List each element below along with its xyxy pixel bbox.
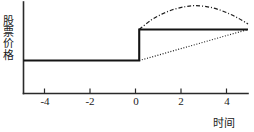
x-tick-label-4: 4 [216, 96, 238, 107]
stock-price-event-study-chart: -4 -2 0 2 4 股票价格 时间 [0, 0, 254, 132]
x-tick-label-neg2: -2 [79, 96, 101, 107]
x-tick-label-neg4: -4 [34, 96, 56, 107]
chart-plot-area [0, 0, 254, 132]
series-efficient-market-response [24, 29, 249, 60]
series-delayed-response [139, 29, 248, 60]
x-tick-label-2: 2 [170, 96, 192, 107]
y-axis-title: 股票价格 [1, 16, 16, 61]
series-overreaction-response [139, 6, 248, 30]
x-tick-label-0: 0 [125, 96, 147, 107]
x-axis-title: 时间 [213, 114, 235, 130]
